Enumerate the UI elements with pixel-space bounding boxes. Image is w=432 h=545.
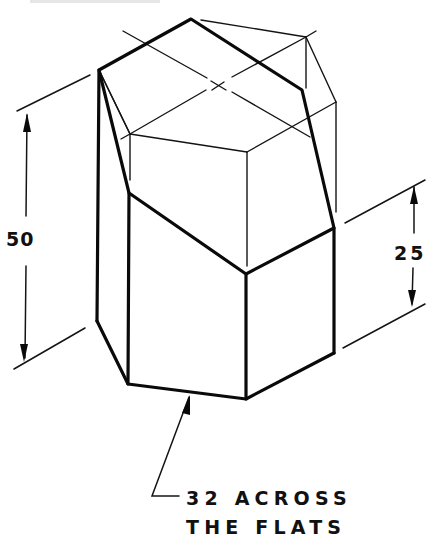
isometric-hex-prism-drawing [0,0,432,545]
across-flats-note-line2: THE FLATS [186,516,346,538]
construction-lines [99,20,336,266]
object-outline [97,19,334,399]
dimension-50 [14,75,90,369]
overall-height-label: 50 [6,228,34,250]
across-flats-note-line1: 32 ACROSS [186,487,352,509]
short-height-label: 25 [394,242,426,264]
drawing-canvas [0,0,432,545]
dimension-25 [343,180,425,348]
across-flats-leader [152,395,190,496]
